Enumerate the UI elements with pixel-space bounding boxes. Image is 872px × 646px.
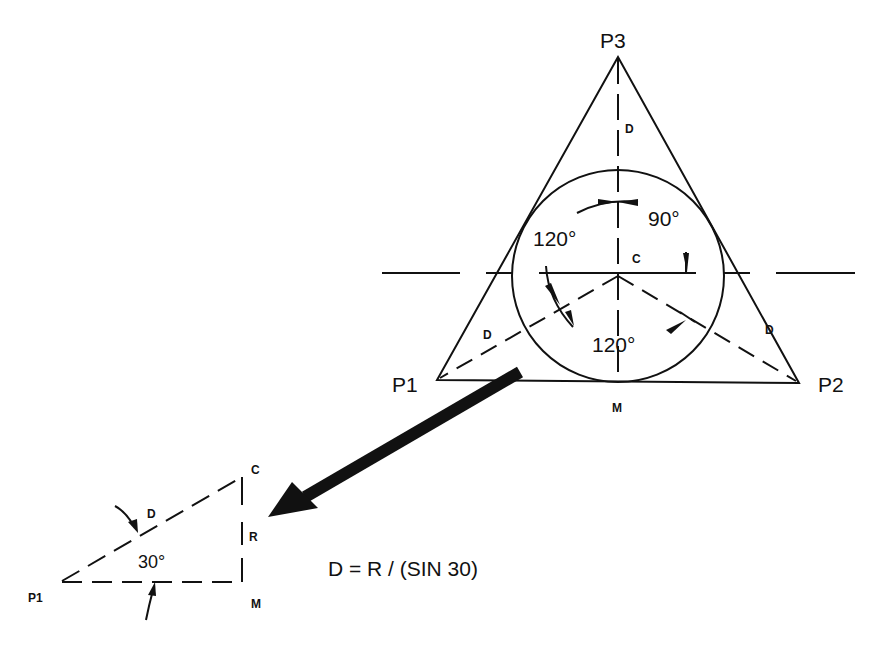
formula-text: D = R / (SIN 30) bbox=[328, 557, 478, 580]
arc-arrow-top-left bbox=[598, 199, 618, 205]
angle-tick-right bbox=[680, 312, 695, 322]
detail-label-r: R bbox=[249, 530, 258, 544]
detail-label-d: D bbox=[147, 507, 156, 521]
label-d-right: D bbox=[765, 323, 774, 337]
label-p2: P2 bbox=[818, 373, 844, 396]
label-center-c: C bbox=[632, 252, 641, 266]
label-angle-90: 90° bbox=[648, 207, 680, 230]
detail-arrowhead-top bbox=[128, 519, 138, 533]
detail-label-c: C bbox=[251, 463, 260, 477]
detail-arrowhead-bottom bbox=[148, 582, 156, 596]
detail-label-p1: P1 bbox=[28, 591, 43, 605]
label-angle-bottom: 120° bbox=[592, 333, 635, 356]
label-d-top: D bbox=[625, 122, 634, 136]
label-p3: P3 bbox=[600, 29, 626, 52]
label-p1: P1 bbox=[392, 373, 418, 396]
detail-label-angle: 30° bbox=[138, 552, 165, 572]
label-d-left: D bbox=[483, 328, 492, 342]
label-angle-left: 120° bbox=[533, 227, 576, 250]
label-midpoint-m: M bbox=[612, 401, 622, 415]
arc-arrow-right bbox=[666, 320, 686, 334]
diagram-canvas: P3 P1 P2 D D D C M 120° 120° 90° P1 C M … bbox=[0, 0, 872, 646]
detail-label-m: M bbox=[251, 597, 261, 611]
arc-arrow-left bbox=[545, 283, 560, 305]
arc-arrow-top-right bbox=[618, 199, 638, 206]
